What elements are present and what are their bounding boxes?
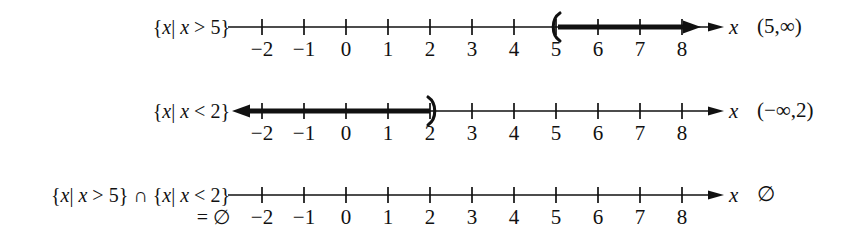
axis-variable-label: x: [729, 184, 738, 206]
tick-label: 4: [497, 206, 531, 228]
interval-left-bracket: (: [757, 14, 764, 38]
empty-set-symbol: ∅: [757, 182, 775, 206]
tick-label: −2: [245, 206, 279, 228]
tick-label: 0: [329, 122, 363, 144]
interval-left-value: 5: [764, 14, 775, 38]
tick-label: 6: [581, 122, 615, 144]
tick-label: 8: [665, 206, 699, 228]
interval-right-value: 2: [796, 98, 807, 122]
tick-label: 6: [581, 38, 615, 60]
tick-label: 5: [539, 206, 573, 228]
tick-label: −1: [287, 206, 321, 228]
tick-label: 2: [413, 206, 447, 228]
interval-notation: (5,∞): [757, 15, 802, 37]
solution-ray-arrowhead: [683, 21, 701, 34]
interval-right-bracket: ): [807, 98, 814, 122]
interval-left-bracket: (: [757, 98, 764, 122]
axis-right-arrowhead: [708, 191, 724, 200]
interval-right-bracket: ): [795, 14, 802, 38]
tick-label: 1: [371, 38, 405, 60]
interval-left-value: −∞: [764, 98, 791, 122]
tick-label: 2: [413, 38, 447, 60]
tick-label: 7: [623, 122, 657, 144]
tick-label: 3: [455, 206, 489, 228]
tick-label: 6: [581, 206, 615, 228]
tick-label: 7: [623, 38, 657, 60]
axis-right-arrowhead: [708, 107, 724, 116]
tick-label: 8: [665, 122, 699, 144]
tick-label: 4: [497, 122, 531, 144]
tick-label: −2: [245, 38, 279, 60]
numberline-row: {x| x < 2} −2 −1 0 1 2 3 4 5 6 7 8 x: [0, 84, 847, 168]
tick-label: 0: [329, 206, 363, 228]
tick-label: 5: [539, 122, 573, 144]
tick-label: −2: [245, 122, 279, 144]
numberline-row: {x| x > 5} ∩ {x| x < 2} = ∅ −2 −1 0 1 2 …: [0, 168, 847, 250]
tick-label: 3: [455, 38, 489, 60]
axis-variable-label: x: [729, 16, 738, 38]
interval-right-value: ∞: [780, 14, 795, 38]
numberline-row: {x| x > 5} −2 −1 0 1 2 3 4 5 6 7: [0, 0, 847, 84]
axis-right-arrowhead: [708, 23, 724, 32]
tick-label: 8: [665, 38, 699, 60]
tick-label: −1: [287, 38, 321, 60]
tick-label: 7: [623, 206, 657, 228]
solution-ray-arrowhead: [232, 105, 250, 118]
tick-label: 5: [539, 38, 573, 60]
tick-label: 4: [497, 38, 531, 60]
tick-label: 2: [413, 122, 447, 144]
tick-label: 1: [371, 122, 405, 144]
tick-label: 0: [329, 38, 363, 60]
tick-label: −1: [287, 122, 321, 144]
interval-notation: ∅: [757, 183, 775, 205]
interval-notation: (−∞,2): [757, 99, 814, 121]
tick-label: 3: [455, 122, 489, 144]
axis-variable-label: x: [729, 100, 738, 122]
tick-label: 1: [371, 206, 405, 228]
